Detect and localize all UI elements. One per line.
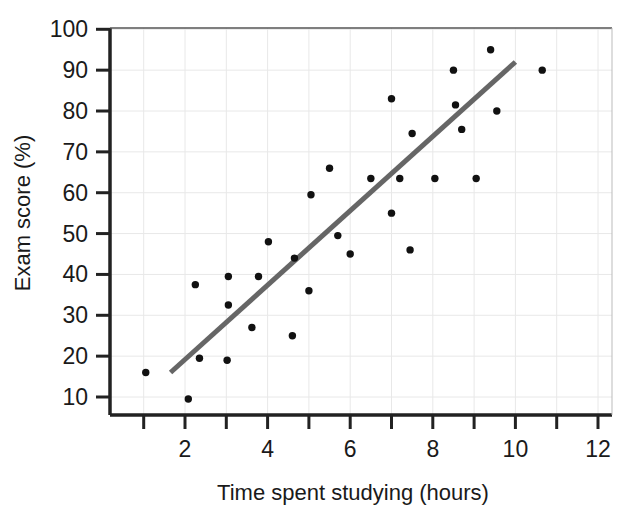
data-point bbox=[307, 191, 314, 198]
y-tick-label: 40 bbox=[62, 261, 88, 287]
x-tick-label: 4 bbox=[261, 436, 274, 462]
y-tick-label: 90 bbox=[62, 57, 88, 83]
data-point bbox=[472, 175, 479, 182]
data-point bbox=[326, 165, 333, 172]
y-tick-label: 60 bbox=[62, 180, 88, 206]
data-points bbox=[142, 46, 546, 403]
data-point bbox=[255, 273, 262, 280]
y-axis-title: Exam score (%) bbox=[10, 135, 35, 291]
trend-line bbox=[171, 62, 516, 373]
data-point bbox=[406, 246, 413, 253]
data-point bbox=[408, 130, 415, 137]
y-tick-label: 50 bbox=[62, 221, 88, 247]
data-point bbox=[223, 357, 230, 364]
data-point bbox=[388, 95, 395, 102]
x-tick-label: 8 bbox=[426, 436, 439, 462]
data-point bbox=[225, 273, 232, 280]
y-tick-label: 100 bbox=[50, 16, 88, 42]
data-point bbox=[248, 324, 255, 331]
chart-svg: 24681012 102030405060708090100 Time spen… bbox=[0, 0, 633, 516]
data-point bbox=[458, 126, 465, 133]
scatter-chart: 24681012 102030405060708090100 Time spen… bbox=[0, 0, 633, 516]
x-tick-label: 6 bbox=[344, 436, 357, 462]
data-point bbox=[142, 369, 149, 376]
data-point bbox=[431, 175, 438, 182]
data-point bbox=[493, 107, 500, 114]
data-point bbox=[334, 232, 341, 239]
x-tick-label: 10 bbox=[503, 436, 529, 462]
y-tick-label: 20 bbox=[62, 343, 88, 369]
y-tick-label: 70 bbox=[62, 139, 88, 165]
x-tick-label: 2 bbox=[179, 436, 192, 462]
data-point bbox=[291, 254, 298, 261]
x-tick-label: 12 bbox=[585, 436, 611, 462]
data-point bbox=[452, 101, 459, 108]
data-point bbox=[185, 395, 192, 402]
x-tick-labels: 24681012 bbox=[179, 436, 611, 462]
data-point bbox=[225, 301, 232, 308]
data-point bbox=[196, 354, 203, 361]
y-tick-label: 10 bbox=[62, 384, 88, 410]
data-point bbox=[265, 238, 272, 245]
y-tick-label: 80 bbox=[62, 98, 88, 124]
data-point bbox=[539, 66, 546, 73]
data-point bbox=[396, 175, 403, 182]
data-point bbox=[192, 281, 199, 288]
x-axis-title: Time spent studying (hours) bbox=[217, 480, 489, 505]
data-point bbox=[305, 287, 312, 294]
data-point bbox=[367, 175, 374, 182]
y-tick-labels: 102030405060708090100 bbox=[50, 16, 88, 410]
data-point bbox=[450, 66, 457, 73]
data-point bbox=[346, 250, 353, 257]
data-point bbox=[289, 332, 296, 339]
data-point bbox=[388, 209, 395, 216]
trend-line-segment bbox=[171, 62, 516, 373]
data-point bbox=[487, 46, 494, 53]
y-tick-label: 30 bbox=[62, 302, 88, 328]
